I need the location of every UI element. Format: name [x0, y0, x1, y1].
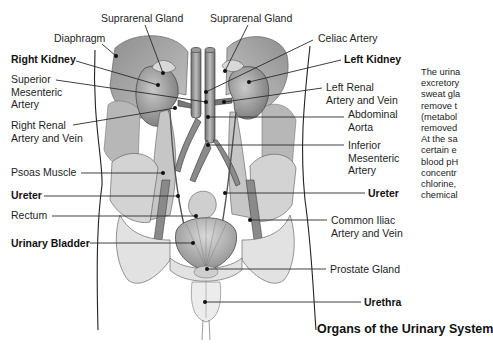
label-line: Artery and Vein	[331, 227, 403, 240]
label-line: Right Renal	[11, 119, 83, 132]
sidebar-text-line: removed	[421, 123, 490, 134]
label-line: Abdominal	[348, 108, 398, 121]
label-diaphragm: Diaphragm	[54, 32, 105, 45]
pointer-dot-prostate-gland	[205, 267, 209, 271]
pointer-dot-superior-mesenteric-artery	[204, 100, 208, 104]
sidebar-text-line: excretory	[421, 78, 490, 89]
sidebar-text-line: The urina	[421, 67, 490, 78]
label-common-iliac-artery-vein: Common IliacArtery and Vein	[331, 214, 403, 239]
label-line: Celiac Artery	[318, 32, 378, 45]
sidebar-body-text: The urinaexcretorysweat glaremove t(meta…	[421, 67, 490, 201]
pointer-dot-common-iliac-artery-vein	[248, 218, 252, 222]
sidebar-text-line: sweat gla	[421, 89, 490, 100]
label-inferior-mesenteric-artery: InferiorMesentericArtery	[348, 139, 399, 177]
label-line: Urethra	[364, 296, 401, 309]
label-line: Artery and Vein	[11, 132, 83, 145]
label-prostate-gland: Prostate Gland	[330, 263, 400, 276]
label-line: Ureter	[368, 187, 399, 200]
bladder-shape	[175, 218, 236, 270]
label-line: Inferior	[348, 139, 399, 152]
sidebar-text-line: At the sa	[421, 134, 490, 145]
pointer-dot-left-kidney	[247, 80, 251, 84]
label-line: Right Kidney	[11, 53, 76, 66]
label-line: Suprarenal Gland	[101, 12, 183, 25]
figure-caption: Organs of the Urinary System	[317, 322, 493, 336]
label-urinary-bladder: Urinary Bladder	[11, 237, 90, 250]
pointer-dot-suprarenal-gland-left	[223, 69, 227, 73]
label-psoas-muscle: Psoas Muscle	[11, 166, 76, 179]
label-line: Left Renal	[326, 81, 398, 94]
rectum-shape	[189, 191, 217, 219]
pointer-dot-abdominal-aorta	[206, 115, 210, 119]
label-line: Aorta	[348, 121, 398, 134]
label-suprarenal-gland-right: Suprarenal Gland	[101, 12, 183, 25]
label-superior-mesenteric-artery: SuperiorMesentericArtery	[11, 73, 62, 111]
pointer-dot-rectum	[194, 214, 198, 218]
label-celiac-artery: Celiac Artery	[318, 32, 378, 45]
pointer-dot-right-renal-artery-vein	[173, 106, 177, 110]
sidebar-text-line: chemical	[421, 190, 490, 201]
label-line: Left Kidney	[344, 53, 401, 66]
pointer-dot-urinary-bladder	[191, 241, 195, 245]
sidebar-text-line: remove t	[421, 101, 490, 112]
leader-line-diaphragm	[102, 44, 116, 56]
pointer-dot-urethra	[203, 300, 207, 304]
label-line: Mesenteric	[11, 86, 62, 99]
label-line: Mesenteric	[348, 152, 399, 165]
pointer-dot-left-renal-artery-vein	[222, 100, 226, 104]
pointer-dot-inferior-mesenteric-artery	[206, 143, 210, 147]
label-rectum: Rectum	[11, 209, 47, 222]
sidebar-text-line: (metabol	[421, 112, 490, 123]
label-left-kidney: Left Kidney	[344, 53, 401, 66]
label-ureter-right: Ureter	[11, 189, 42, 202]
sidebar-text-line: certain e	[421, 145, 490, 156]
pointer-dot-ureter-left	[223, 191, 227, 195]
label-left-renal-artery-vein: Left RenalArtery and Vein	[326, 81, 398, 106]
sidebar-text-line: concentr	[421, 168, 490, 179]
label-line: Diaphragm	[54, 32, 105, 45]
pointer-dot-celiac-artery	[204, 90, 208, 94]
label-abdominal-aorta: AbdominalAorta	[348, 108, 398, 133]
pointer-dot-diaphragm	[114, 54, 118, 58]
label-line: Ureter	[11, 189, 42, 202]
label-line: Psoas Muscle	[11, 166, 76, 179]
label-line: Superior	[11, 73, 62, 86]
label-right-kidney: Right Kidney	[11, 53, 76, 66]
label-line: Urinary Bladder	[11, 237, 90, 250]
label-urethra: Urethra	[364, 296, 401, 309]
pointer-dot-right-kidney	[156, 83, 160, 87]
label-line: Artery	[348, 164, 399, 177]
label-line: Suprarenal Gland	[210, 12, 292, 25]
label-line: Artery and Vein	[326, 94, 398, 107]
label-right-renal-artery-vein: Right RenalArtery and Vein	[11, 119, 83, 144]
sidebar-text-line: blood pH	[421, 157, 490, 168]
label-line: Common Iliac	[331, 214, 403, 227]
sidebar-text-line: chlorine,	[421, 179, 490, 190]
pointer-dot-suprarenal-gland-right	[161, 71, 165, 75]
pointer-dot-ureter-right	[176, 194, 180, 198]
label-ureter-left: Ureter	[368, 187, 399, 200]
label-line: Artery	[11, 98, 62, 111]
label-line: Rectum	[11, 209, 47, 222]
label-line: Prostate Gland	[330, 263, 400, 276]
label-suprarenal-gland-left: Suprarenal Gland	[210, 12, 292, 25]
pointer-dot-psoas-muscle	[161, 171, 165, 175]
